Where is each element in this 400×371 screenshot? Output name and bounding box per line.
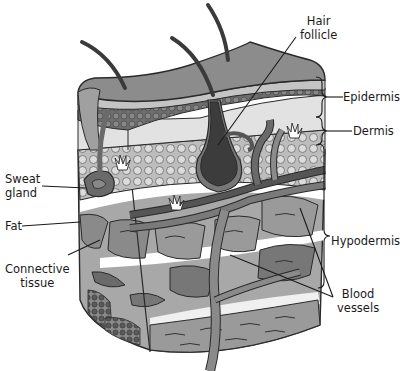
label-hypodermis: Hypodermis (331, 234, 400, 248)
label-connective-tissue-line1: Connective (5, 262, 70, 276)
label-blood-vessels-line1: Blood (337, 287, 379, 301)
label-epidermis: Epidermis (343, 90, 400, 104)
label-fat: Fat (5, 219, 22, 233)
label-sweat-gland-line1: Sweat (5, 172, 40, 186)
label-dermis: Dermis (353, 124, 394, 138)
label-connective-tissue-line2: tissue (5, 276, 70, 290)
label-hair-follicle-line2: follicle (300, 28, 337, 42)
label-sweat-gland-line2: gland (5, 186, 40, 200)
label-sweat-gland: Sweat gland (5, 172, 40, 200)
label-connective-tissue: Connective tissue (5, 262, 70, 290)
label-hair-follicle-line1: Hair (300, 14, 337, 28)
label-blood-vessels: Blood vessels (337, 287, 379, 315)
label-blood-vessels-line2: vessels (337, 301, 379, 315)
label-hair-follicle: Hair follicle (300, 14, 337, 42)
